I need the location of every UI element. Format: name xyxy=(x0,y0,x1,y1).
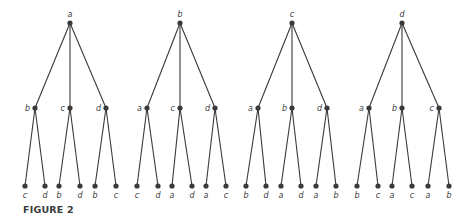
tree-edge xyxy=(428,108,439,186)
tree-edge xyxy=(70,23,106,108)
middle-node-label: b xyxy=(25,104,30,113)
leaf-node-label: d xyxy=(77,191,83,200)
middle-node-label: a xyxy=(359,104,364,113)
leaf-node-label: b xyxy=(56,191,61,200)
tree-edge xyxy=(369,23,402,108)
middle-node-label: d xyxy=(205,104,211,113)
leaf-node-label: c xyxy=(23,191,28,200)
leaf-node-label: a xyxy=(204,191,209,200)
middle-node xyxy=(67,105,72,110)
leaf-node-label: b xyxy=(446,191,451,200)
tree-edge xyxy=(172,108,180,186)
leaf-node-label: c xyxy=(224,191,229,200)
middle-node-label: a xyxy=(137,104,142,113)
leaf-node xyxy=(113,183,118,188)
leaf-node-label: d xyxy=(189,191,195,200)
leaf-node xyxy=(446,183,451,188)
leaf-node-label: b xyxy=(92,191,97,200)
tree-edge xyxy=(258,108,266,186)
tree-edge xyxy=(35,23,70,108)
tree-edge xyxy=(147,108,158,186)
middle-node xyxy=(324,105,329,110)
leaf-node xyxy=(243,183,248,188)
middle-node-label: a xyxy=(248,104,253,113)
tree-edge xyxy=(357,108,369,186)
middle-node xyxy=(255,105,260,110)
root-node-label: b xyxy=(177,10,182,19)
middle-node-label: b xyxy=(392,104,397,113)
root-node-label: c xyxy=(290,10,295,19)
leaf-node-label: c xyxy=(135,191,140,200)
leaf-node xyxy=(155,183,160,188)
root-node xyxy=(399,20,404,25)
tree-edge xyxy=(106,108,116,186)
root-node-label: d xyxy=(399,10,405,19)
tree-edge xyxy=(292,23,327,108)
leaf-node-label: a xyxy=(390,191,395,200)
leaf-node-label: c xyxy=(376,191,381,200)
leaf-node xyxy=(425,183,430,188)
middle-node xyxy=(144,105,149,110)
leaf-node xyxy=(223,183,228,188)
leaf-node xyxy=(298,183,303,188)
leaf-node xyxy=(203,183,208,188)
tree-edge xyxy=(327,108,336,186)
leaf-node-label: b xyxy=(243,191,248,200)
tree-edge xyxy=(59,108,70,186)
middle-node xyxy=(177,105,182,110)
middle-node-label: d xyxy=(317,104,323,113)
figure-caption: FIGURE 2 xyxy=(23,204,74,215)
leaf-node xyxy=(263,183,268,188)
middle-node xyxy=(32,105,37,110)
leaf-node xyxy=(333,183,338,188)
leaf-node xyxy=(409,183,414,188)
leaf-node-label: d xyxy=(263,191,269,200)
tree-edge xyxy=(258,23,292,108)
middle-node xyxy=(399,105,404,110)
tree-edge xyxy=(35,108,45,186)
leaf-node-label: a xyxy=(170,191,175,200)
leaf-node xyxy=(313,183,318,188)
leaf-node-label: d xyxy=(298,191,304,200)
tree-edge xyxy=(95,108,106,186)
leaf-node-label: a xyxy=(314,191,319,200)
leaf-node-label: a xyxy=(279,191,284,200)
tree-edge xyxy=(281,108,292,186)
middle-node-label: b xyxy=(282,104,287,113)
leaf-node xyxy=(278,183,283,188)
tree-edge xyxy=(137,108,147,186)
tree-edge xyxy=(369,108,378,186)
middle-node-label: c xyxy=(61,104,66,113)
tree-edge xyxy=(392,108,402,186)
tree-edge xyxy=(402,108,412,186)
leaf-node xyxy=(92,183,97,188)
tree-diagram: abcdcbddbcbacdcaddaccabdbaddabdabcbaccab xyxy=(0,0,476,223)
tree-edge xyxy=(180,108,192,186)
tree-edge xyxy=(70,108,80,186)
leaf-node xyxy=(375,183,380,188)
leaf-node xyxy=(22,183,27,188)
tree-edge xyxy=(246,108,258,186)
tree-edge xyxy=(206,108,215,186)
leaf-node xyxy=(56,183,61,188)
leaf-node-label: d xyxy=(155,191,161,200)
tree-edge xyxy=(215,108,226,186)
root-node xyxy=(177,20,182,25)
middle-node xyxy=(212,105,217,110)
middle-node xyxy=(366,105,371,110)
middle-node xyxy=(103,105,108,110)
root-node xyxy=(289,20,294,25)
tree-edge xyxy=(292,108,301,186)
leaf-node-label: d xyxy=(42,191,48,200)
leaf-node-label: c xyxy=(410,191,415,200)
leaf-node xyxy=(389,183,394,188)
leaf-node-label: a xyxy=(426,191,431,200)
leaf-node xyxy=(189,183,194,188)
leaf-node-label: b xyxy=(354,191,359,200)
tree-edge xyxy=(316,108,327,186)
leaf-node xyxy=(134,183,139,188)
leaf-node-label: c xyxy=(114,191,119,200)
leaf-node xyxy=(354,183,359,188)
leaf-node-label: b xyxy=(333,191,338,200)
middle-node xyxy=(436,105,441,110)
